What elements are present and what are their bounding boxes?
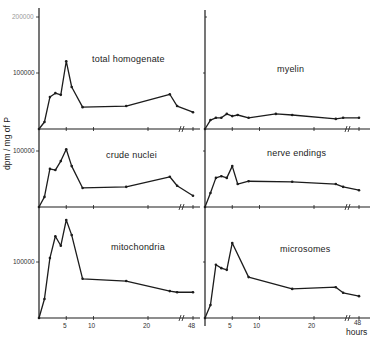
series-nerve-endings-point bbox=[236, 183, 239, 186]
series-crude-nuclei-point bbox=[70, 165, 73, 168]
series-total-homogenate-point bbox=[192, 111, 195, 114]
series-myelin-point bbox=[209, 119, 212, 122]
series-microsomes-point bbox=[291, 288, 294, 291]
series-total-homogenate-point bbox=[38, 128, 41, 131]
series-myelin-point bbox=[220, 117, 223, 120]
panel-title-crude-nuclei: crude nuclei bbox=[106, 150, 157, 160]
series-crude-nuclei-point bbox=[43, 196, 46, 199]
series-nerve-endings-point bbox=[220, 175, 223, 178]
y-tick-200000: 200000 bbox=[12, 13, 34, 20]
series-crude-nuclei-point bbox=[54, 169, 57, 172]
series-microsomes-point bbox=[209, 304, 212, 307]
series-microsomes-line bbox=[205, 243, 359, 318]
series-microsomes-point bbox=[226, 269, 229, 272]
series-myelin-line bbox=[205, 114, 359, 129]
series-mitochondria-point bbox=[81, 278, 84, 281]
series-total-homogenate-point bbox=[65, 60, 68, 63]
series-nerve-endings-point bbox=[231, 165, 234, 168]
series-nerve-endings-point bbox=[342, 186, 345, 189]
x-tick-5-right: 5 bbox=[228, 322, 232, 329]
series-total-homogenate-point bbox=[176, 105, 179, 108]
series-crude-nuclei-point bbox=[65, 148, 68, 151]
series-myelin-point bbox=[335, 118, 338, 121]
series-microsomes-point bbox=[215, 264, 218, 267]
series-microsomes-point bbox=[220, 267, 223, 270]
series-myelin-point bbox=[226, 113, 229, 116]
figure: dpm / mg of P 200000 100000 100000 10000… bbox=[0, 0, 381, 339]
series-total-homogenate-point bbox=[43, 121, 46, 124]
series-nerve-endings-point bbox=[215, 177, 218, 180]
series-mitochondria-point bbox=[65, 219, 68, 222]
series-myelin-point bbox=[236, 114, 239, 117]
series-microsomes-point bbox=[335, 286, 338, 289]
series-myelin-point bbox=[204, 128, 207, 131]
series-microsomes-point bbox=[358, 295, 361, 298]
series-total-homogenate-point bbox=[70, 86, 73, 89]
series-crude-nuclei-point bbox=[49, 168, 52, 171]
series-nerve-endings-line bbox=[205, 166, 359, 207]
series-myelin-point bbox=[215, 117, 218, 120]
series-total-homogenate-point bbox=[125, 105, 128, 108]
series-crude-nuclei-point bbox=[125, 186, 128, 189]
x-tick-48-left: 48 bbox=[188, 322, 195, 329]
series-nerve-endings-point bbox=[247, 180, 250, 183]
series-total-homogenate-point bbox=[169, 93, 172, 96]
series-myelin-point bbox=[342, 117, 345, 120]
series-crude-nuclei-point bbox=[60, 160, 63, 163]
series-microsomes-point bbox=[231, 242, 234, 245]
series-microsomes-point bbox=[342, 292, 345, 295]
x-tick-5-left: 5 bbox=[63, 322, 67, 329]
y-tick-100000-bottom: 100000 bbox=[13, 258, 35, 265]
x-tick-10-left: 10 bbox=[88, 322, 95, 329]
series-nerve-endings-point bbox=[209, 192, 212, 195]
series-myelin-point bbox=[358, 117, 361, 120]
panel-title-microsomes: microsomes bbox=[280, 244, 331, 254]
series-mitochondria-point bbox=[49, 257, 52, 260]
series-mitochondria-point bbox=[54, 235, 57, 238]
series-mitochondria-point bbox=[60, 244, 63, 247]
series-total-homogenate-point bbox=[49, 96, 52, 99]
series-mitochondria-point bbox=[169, 290, 172, 293]
series-nerve-endings-point bbox=[291, 181, 294, 184]
panel-title-mitochondria: mitochondria bbox=[111, 242, 165, 252]
series-mitochondria-point bbox=[176, 291, 179, 294]
panel-title-nerve-endings: nerve endings bbox=[267, 148, 326, 158]
series-crude-nuclei-point bbox=[176, 184, 179, 187]
series-nerve-endings-point bbox=[204, 206, 207, 209]
x-tick-20-right: 20 bbox=[308, 322, 315, 329]
series-mitochondria-point bbox=[70, 234, 73, 237]
series-total-homogenate-point bbox=[60, 94, 63, 97]
chart-canvas bbox=[0, 0, 381, 339]
x-tick-10-right: 10 bbox=[253, 322, 260, 329]
series-microsomes-point bbox=[247, 276, 250, 279]
series-crude-nuclei-point bbox=[192, 195, 195, 198]
panel-title-myelin: myelin bbox=[277, 64, 304, 74]
series-microsomes-point bbox=[204, 317, 207, 320]
series-mitochondria-line bbox=[39, 220, 193, 318]
series-mitochondria-point bbox=[125, 280, 128, 283]
series-myelin-point bbox=[231, 115, 234, 118]
series-myelin-point bbox=[291, 114, 294, 117]
y-axis-label-container: dpm / mg of P bbox=[2, 92, 14, 172]
series-total-homogenate-point bbox=[81, 106, 84, 109]
series-nerve-endings-point bbox=[226, 177, 229, 180]
x-tick-20-left: 20 bbox=[143, 322, 150, 329]
series-mitochondria-point bbox=[38, 317, 41, 320]
y-axis-label: dpm / mg of P bbox=[2, 117, 12, 170]
series-crude-nuclei-point bbox=[81, 187, 84, 190]
x-axis-unit-label: hours bbox=[346, 327, 367, 337]
series-nerve-endings-point bbox=[358, 189, 361, 192]
series-myelin-point bbox=[247, 117, 250, 120]
panel-title-total-homogenate: total homogenate bbox=[92, 54, 165, 64]
x-tick-48-right: 48 bbox=[354, 319, 361, 326]
series-crude-nuclei-point bbox=[169, 175, 172, 178]
y-tick-100000-top: 100000 bbox=[13, 69, 35, 76]
series-mitochondria-point bbox=[43, 298, 46, 301]
series-mitochondria-point bbox=[192, 291, 195, 294]
series-myelin-point bbox=[275, 113, 278, 116]
series-nerve-endings-point bbox=[335, 183, 338, 186]
y-tick-100000-middle: 100000 bbox=[13, 147, 35, 154]
series-total-homogenate-point bbox=[54, 92, 57, 95]
series-crude-nuclei-point bbox=[38, 206, 41, 209]
